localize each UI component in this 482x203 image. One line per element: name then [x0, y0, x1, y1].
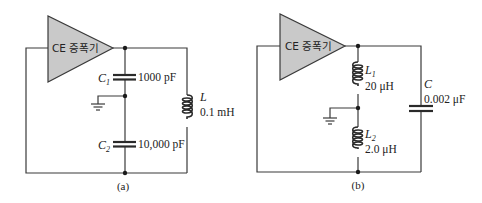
- amplifier-label: CE 증폭기: [52, 42, 99, 54]
- l2-label: L2: [364, 127, 376, 143]
- junction-dot: [356, 44, 360, 48]
- caption-b: (b): [352, 179, 365, 192]
- oscillator-circuits-figure: C1 1000 pF C2 10,000 pF L 0.1 mH CE 증폭기 …: [0, 0, 482, 203]
- junction-dot: [123, 46, 127, 50]
- l-value: 0.1 mH: [200, 106, 235, 118]
- inductor-l: [183, 95, 193, 119]
- inductor-l1: [353, 62, 363, 86]
- ground-icon: [91, 104, 105, 110]
- c1-label: C1: [98, 71, 110, 87]
- junction-dot: [356, 170, 360, 174]
- junction-dot: [123, 94, 127, 98]
- c2-value: 10,000 pF: [138, 138, 185, 151]
- l-label: L: [199, 90, 207, 104]
- ground-wire: [330, 108, 358, 118]
- inductor-l2: [353, 127, 363, 149]
- caption-a: (a): [117, 180, 130, 193]
- panel-a-colpitts-circuit: C1 1000 pF C2 10,000 pF L 0.1 mH CE 증폭기 …: [26, 16, 235, 193]
- l1-label: L1: [364, 63, 376, 79]
- l2-value: 2.0 μH: [365, 143, 397, 156]
- c-label: C: [424, 77, 433, 91]
- c-value: 0.002 μF: [424, 93, 465, 106]
- c1-value: 1000 pF: [138, 71, 176, 84]
- ground-icon: [323, 118, 337, 124]
- amplifier-label: CE 증폭기: [285, 40, 332, 52]
- c2-label: C2: [98, 138, 110, 154]
- junction-dot: [123, 171, 127, 175]
- junction-dot: [356, 106, 360, 110]
- capacitor-c1: [113, 75, 136, 80]
- capacitor-c2: [113, 142, 136, 147]
- ground-wire: [98, 96, 125, 104]
- l1-value: 20 μH: [365, 80, 394, 93]
- capacitor-c: [409, 106, 433, 111]
- panel-b-hartley-circuit: L1 20 μH L2 2.0 μH C 0.002 μF CE 증폭기 (b): [257, 14, 465, 192]
